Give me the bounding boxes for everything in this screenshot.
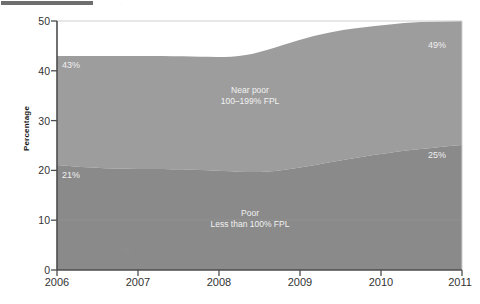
series-label-poor-name: Poor	[190, 208, 310, 219]
x-tick-label-2011: 2011	[435, 276, 480, 288]
value-label-near-poor-start: 43%	[62, 60, 80, 70]
y-tick-label-50: 50	[28, 15, 50, 27]
y-tick-label-30: 30	[28, 115, 50, 127]
series-label-poor-range: Less than 100% FPL	[190, 219, 310, 230]
x-tick-label-2008: 2008	[194, 276, 244, 288]
chart-figure: · · · · · Percentage	[0, 0, 480, 304]
value-label-near-poor-end: 49%	[428, 40, 446, 50]
x-tick-label-2009: 2009	[275, 276, 325, 288]
value-label-poor-end: 25%	[428, 150, 446, 160]
x-tick-label-2007: 2007	[113, 276, 163, 288]
y-tick-label-wrap: 50	[26, 15, 50, 27]
y-tick-label-wrap: 0	[26, 264, 50, 276]
series-label-near-poor-range: 100–199% FPL	[195, 96, 305, 107]
series-label-near-poor-name: Near poor	[195, 85, 305, 96]
value-label-poor-start: 21%	[62, 170, 80, 180]
chart-plot-area	[0, 0, 480, 304]
y-tick-label-40: 40	[28, 65, 50, 77]
x-tick-label-2006: 2006	[32, 276, 82, 288]
series-label-poor: Poor Less than 100% FPL	[190, 208, 310, 230]
y-tick-label-wrap: 20	[26, 164, 50, 176]
y-tick-label-wrap: 30	[26, 115, 50, 127]
y-tick-label-wrap: 10	[26, 214, 50, 226]
scan-artifact	[123, 245, 131, 253]
x-tick-label-2010: 2010	[356, 276, 406, 288]
y-tick-label-wrap: 40	[26, 65, 50, 77]
y-tick-label-10: 10	[28, 214, 50, 226]
series-label-near-poor: Near poor 100–199% FPL	[195, 85, 305, 107]
y-tick-label-0: 0	[28, 264, 50, 276]
y-tick-label-20: 20	[28, 164, 50, 176]
